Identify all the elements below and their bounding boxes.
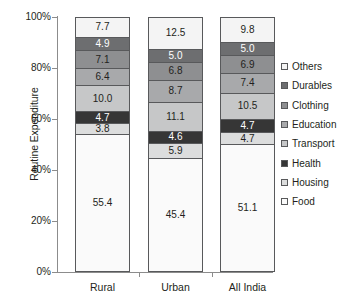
segment-value-label: 8.7: [169, 86, 183, 96]
y-tick-mark: [52, 17, 57, 18]
segment-value-label: 4.9: [96, 39, 110, 49]
legend-item-durables[interactable]: Durables: [281, 76, 354, 95]
segment-value-label: 55.4: [93, 198, 112, 208]
x-axis-category-label: All India: [203, 281, 293, 293]
segment-others[interactable]: 7.7: [76, 18, 129, 38]
plot-area: 7.74.97.16.410.04.73.855.412.55.06.88.71…: [57, 17, 272, 272]
legend-label: Clothing: [292, 100, 329, 111]
legend-label: Health: [292, 158, 321, 169]
legend-swatch-icon: [281, 121, 288, 128]
segment-value-label: 4.7: [241, 134, 255, 144]
legend-item-others[interactable]: Others: [281, 57, 354, 76]
y-tick-label: 60%: [7, 113, 51, 124]
y-tick-label: 80%: [7, 62, 51, 73]
y-tick-label: 100%: [7, 11, 51, 22]
legend: OthersDurablesClothingEducationTransport…: [281, 57, 354, 211]
segment-education[interactable]: 7.4: [221, 74, 274, 93]
segment-durables[interactable]: 4.9: [76, 38, 129, 51]
segment-housing[interactable]: 5.9: [149, 144, 202, 160]
legend-label: Education: [292, 119, 336, 130]
segment-others[interactable]: 9.8: [221, 18, 274, 43]
segment-value-label: 7.4: [241, 78, 255, 88]
legend-label: Housing: [292, 177, 329, 188]
legend-item-health[interactable]: Health: [281, 153, 354, 172]
segment-value-label: 4.7: [96, 113, 110, 123]
legend-item-transport[interactable]: Transport: [281, 134, 354, 153]
segment-value-label: 4.6: [169, 132, 183, 142]
segment-durables[interactable]: 5.0: [221, 43, 274, 56]
y-tick-mark: [52, 272, 57, 273]
segment-value-label: 7.7: [96, 22, 110, 32]
segment-value-label: 45.4: [166, 210, 185, 220]
x-axis-line: [57, 272, 273, 273]
legend-item-housing[interactable]: Housing: [281, 173, 354, 192]
segment-value-label: 7.1: [96, 55, 110, 65]
segment-health[interactable]: 4.7: [76, 112, 129, 125]
segment-value-label: 51.1: [238, 203, 257, 213]
bar-rural[interactable]: 7.74.97.16.410.04.73.855.4: [75, 17, 130, 272]
y-tick-label: 40%: [7, 164, 51, 175]
segment-durables[interactable]: 5.0: [149, 50, 202, 63]
bar-urban[interactable]: 12.55.06.88.711.14.65.945.4: [148, 17, 203, 272]
segment-value-label: 10.5: [238, 101, 257, 111]
segment-health[interactable]: 4.7: [221, 120, 274, 133]
segment-value-label: 6.9: [241, 60, 255, 70]
segment-food[interactable]: 51.1: [221, 145, 274, 271]
y-tick-mark: [52, 170, 57, 171]
segment-health[interactable]: 4.6: [149, 132, 202, 144]
legend-swatch-icon: [281, 102, 288, 109]
segment-value-label: 3.8: [96, 124, 110, 134]
y-tick-mark: [52, 119, 57, 120]
segment-value-label: 6.8: [169, 66, 183, 76]
legend-swatch-icon: [281, 140, 288, 147]
segment-clothing[interactable]: 6.8: [149, 63, 202, 81]
bar-all-india[interactable]: 9.85.06.97.410.54.74.751.1: [220, 17, 275, 272]
segment-transport[interactable]: 10.0: [76, 86, 129, 112]
legend-item-clothing[interactable]: Clothing: [281, 96, 354, 115]
x-tick-mark: [139, 273, 140, 277]
legend-swatch-icon: [281, 82, 288, 89]
x-tick-mark: [212, 273, 213, 277]
legend-swatch-icon: [281, 160, 288, 167]
segment-value-label: 6.4: [96, 72, 110, 82]
y-tick-mark: [52, 221, 57, 222]
y-tick-label: 20%: [7, 215, 51, 226]
segment-others[interactable]: 12.5: [149, 18, 202, 50]
legend-label: Transport: [292, 138, 334, 149]
legend-item-education[interactable]: Education: [281, 115, 354, 134]
legend-label: Others: [292, 61, 322, 72]
legend-label: Food: [292, 196, 315, 207]
segment-value-label: 12.5: [166, 28, 185, 38]
segment-transport[interactable]: 11.1: [149, 103, 202, 131]
legend-swatch-icon: [281, 198, 288, 205]
segment-value-label: 5.0: [241, 44, 255, 54]
segment-food[interactable]: 45.4: [149, 159, 202, 271]
segment-value-label: 10.0: [93, 94, 112, 104]
legend-swatch-icon: [281, 179, 288, 186]
legend-label: Durables: [292, 80, 332, 91]
legend-swatch-icon: [281, 63, 288, 70]
segment-value-label: 5.9: [169, 146, 183, 156]
segment-food[interactable]: 55.4: [76, 135, 129, 271]
y-tick-mark: [52, 68, 57, 69]
segment-value-label: 9.8: [241, 25, 255, 35]
stacked-bar-chart: Routine Expenditure 7.74.97.16.410.04.73…: [0, 0, 354, 301]
y-axis-title: Routine Expenditure: [28, 24, 40, 244]
y-tick-label: 0%: [7, 266, 51, 277]
segment-value-label: 11.1: [166, 112, 185, 122]
segment-clothing[interactable]: 7.1: [76, 51, 129, 69]
legend-item-food[interactable]: Food: [281, 192, 354, 211]
segment-value-label: 5.0: [169, 51, 183, 61]
segment-housing[interactable]: 3.8: [76, 124, 129, 134]
segment-education[interactable]: 6.4: [76, 69, 129, 86]
segment-education[interactable]: 8.7: [149, 81, 202, 103]
segment-housing[interactable]: 4.7: [221, 133, 274, 146]
segment-transport[interactable]: 10.5: [221, 94, 274, 121]
segment-value-label: 4.7: [241, 121, 255, 131]
segment-clothing[interactable]: 6.9: [221, 56, 274, 74]
